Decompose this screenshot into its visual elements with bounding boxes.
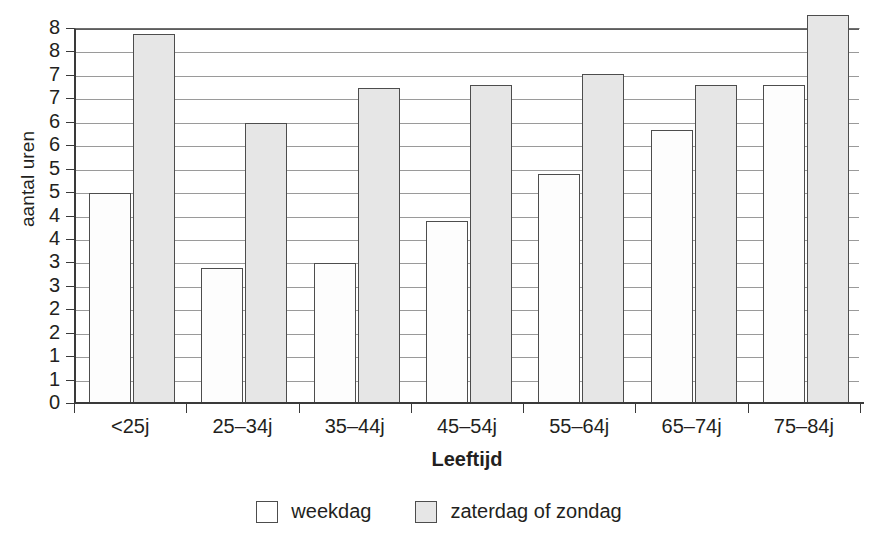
chart-legend: weekdagzaterdag of zondag (0, 500, 878, 523)
bar-zaterdag-of-zondag-5 (695, 85, 737, 404)
gridline (76, 76, 859, 77)
bar-zaterdag-of-zondag-0 (133, 34, 175, 404)
gridline (76, 193, 859, 194)
plot-area (74, 28, 860, 403)
y-axis-tick-label: 3 (20, 275, 60, 295)
y-axis-tick-label: 1 (20, 345, 60, 365)
gridline (76, 123, 859, 124)
y-axis-tick-label: 5 (20, 181, 60, 201)
x-axis-tick (74, 404, 75, 413)
y-axis-tick-label: 1 (20, 369, 60, 389)
y-axis-tick-label: 8 (20, 17, 60, 37)
y-axis-tick-label: 4 (20, 205, 60, 225)
gridline (76, 170, 859, 171)
y-axis-tick-label: 2 (20, 298, 60, 318)
legend-item-weekend[interactable]: zaterdag of zondag (415, 500, 621, 523)
x-axis-tick (860, 404, 861, 413)
bar-weekdag-6 (763, 85, 805, 404)
y-axis-tick-label: 7 (20, 64, 60, 84)
legend-label: weekdag (291, 500, 371, 523)
gridline (76, 217, 859, 218)
y-axis-tick-label: 8 (20, 40, 60, 60)
x-axis-tick (635, 404, 636, 413)
bar-zaterdag-of-zondag-3 (470, 85, 512, 404)
x-axis-line (74, 402, 864, 404)
bar-weekdag-1 (201, 268, 243, 404)
legend-item-weekdag[interactable]: weekdag (256, 500, 371, 523)
x-axis-tick (523, 404, 524, 413)
gridline (76, 146, 859, 147)
gridline (76, 99, 859, 100)
bar-weekdag-4 (538, 174, 580, 404)
x-axis-title: Leeftijd (74, 448, 860, 471)
x-axis-tick (411, 404, 412, 413)
x-axis-category-label: 75–84j (734, 414, 874, 438)
x-axis-tick (299, 404, 300, 413)
y-axis-tick-label: 2 (20, 322, 60, 342)
bar-zaterdag-of-zondag-1 (245, 123, 287, 404)
bar-weekdag-5 (651, 130, 693, 404)
x-axis-tick (748, 404, 749, 413)
bar-weekdag-0 (89, 193, 131, 404)
x-axis-tick (186, 404, 187, 413)
bar-weekdag-3 (426, 221, 468, 404)
y-axis-tick-label: 3 (20, 251, 60, 271)
y-axis-tick-label: 4 (20, 228, 60, 248)
legend-swatch-icon (415, 501, 437, 523)
y-axis-tick-label: 0 (20, 392, 60, 412)
bar-zaterdag-of-zondag-2 (358, 88, 400, 404)
y-axis-tick-label: 5 (20, 158, 60, 178)
bar-chart-figure: aantal uren 88776655443322110 <25j25–34j… (0, 0, 878, 554)
legend-swatch-icon (256, 501, 278, 523)
gridline (76, 52, 859, 53)
bar-zaterdag-of-zondag-6 (807, 15, 849, 404)
legend-label: zaterdag of zondag (450, 500, 621, 523)
y-axis-tick-label: 6 (20, 111, 60, 131)
y-axis-tick-label: 6 (20, 134, 60, 154)
bar-weekdag-2 (314, 263, 356, 404)
plot-inner (76, 29, 859, 403)
y-axis-tick-label: 7 (20, 87, 60, 107)
gridline (76, 29, 859, 30)
bar-zaterdag-of-zondag-4 (582, 74, 624, 404)
